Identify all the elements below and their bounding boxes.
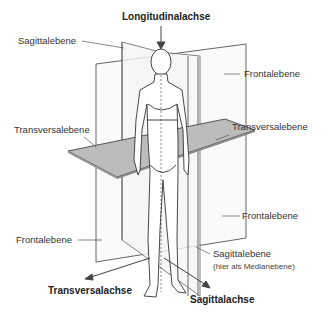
sagittal-plane-note: (hier als Medianebene)	[213, 263, 295, 271]
frontal-plane-label-top-right: Frontalebene	[244, 69, 300, 79]
anatomy-planes-diagram: Longitudinalachse Sagittalebene Frontale…	[0, 0, 328, 317]
sagittal-axis-label: Sagittalachse	[190, 295, 254, 305]
transversal-plane-label-right: Transversalebene	[232, 122, 308, 132]
transversal-axis-label: Transversalachse	[48, 286, 132, 296]
longitudinal-axis-label: Longitudinalachse	[122, 12, 210, 22]
frontal-plane-label-bottom-left: Frontalebene	[16, 235, 72, 245]
sagittal-plane-label-top: Sagittalebene	[18, 36, 76, 46]
transversal-plane-label-left: Transversalebene	[14, 125, 90, 135]
frontal-plane-label-bottom-right: Frontalebene	[242, 211, 298, 221]
sagittal-plane-label-bottom: Sagittalebene	[213, 249, 271, 259]
